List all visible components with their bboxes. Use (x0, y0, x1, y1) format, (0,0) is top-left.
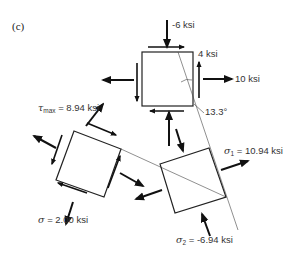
max-shear-right-arrow (108, 156, 120, 188)
principal-angle-label: 13.3° (205, 106, 227, 117)
connecting-line (121, 149, 226, 197)
angle-leader (194, 104, 204, 113)
sigma2-value: = -6.94 ksi (186, 234, 233, 245)
stress-transformation-diagram: (c) -6 ksi 4 ksi 10 ksi 13.3° (0, 0, 296, 258)
sigma1-value: = 10.94 ksi (234, 145, 283, 156)
sigma-value: = 2.00 ksi (45, 214, 89, 225)
max-shear-element: τmax = 8.94 ksi σ = 2.00 ksi (34, 102, 143, 225)
max-shear-normal-right-arrow (120, 173, 143, 186)
max-shear-top-arrow (87, 123, 116, 135)
original-stress-element: -6 ksi 4 ksi 10 ksi 13.3° (103, 19, 260, 230)
sigma-avg-label: σ = 2.00 ksi (38, 214, 88, 225)
tau-max-label: τmax = 8.94 ksi (38, 102, 99, 114)
sigma1-label: σ1 = 10.94 ksi (224, 145, 283, 157)
original-element-square (142, 52, 193, 106)
sigma2-bottom-arrow (202, 214, 210, 236)
max-shear-element-square (56, 131, 121, 197)
max-shear-left-arrow (52, 135, 62, 164)
sigma2-label: σ2 = -6.94 ksi (176, 234, 233, 246)
max-shear-normal-left-arrow (34, 136, 56, 148)
principal-stress-element: σ1 = 10.94 ksi σ2 = -6.94 ksi (136, 129, 283, 246)
max-shear-bottom-arrow (58, 183, 87, 193)
angle-arc (181, 79, 192, 82)
sigma1-left-arrow (136, 190, 162, 199)
normal-stress-y-label: -6 ksi (172, 19, 195, 30)
sigma2-top-arrow (176, 129, 183, 151)
tau-value: = 8.94 ksi (56, 102, 100, 113)
shear-stress-label: 4 ksi (198, 48, 218, 59)
principal-element-square (160, 148, 226, 213)
normal-stress-x-label: 10 ksi (235, 73, 260, 84)
tau-subscript: max (43, 107, 56, 114)
panel-label: (c) (12, 20, 25, 33)
sigma1-right-arrow (221, 161, 248, 170)
